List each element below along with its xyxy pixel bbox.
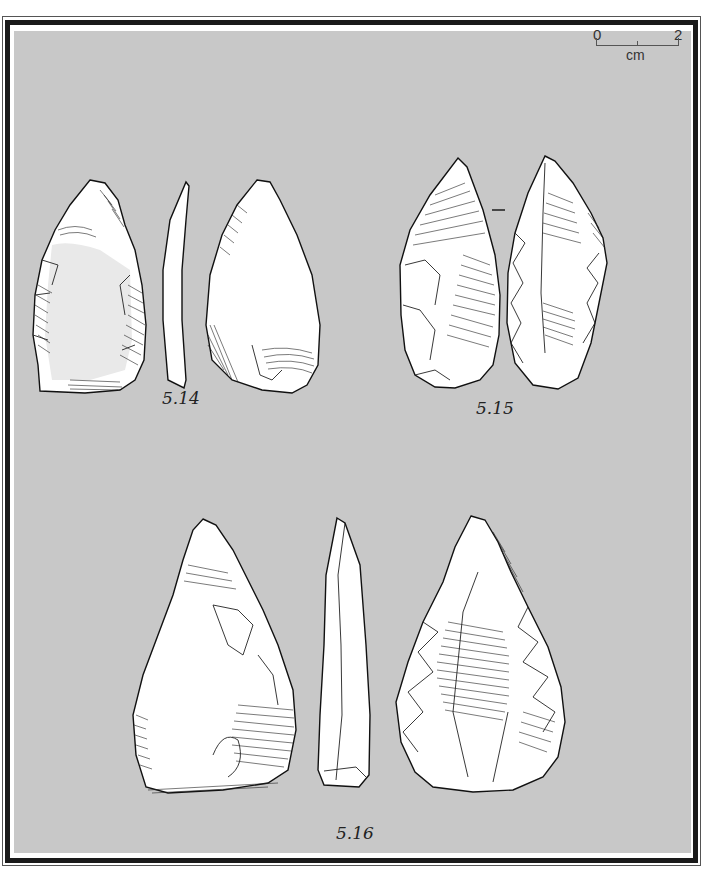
artifact-5-14-ventral-view xyxy=(202,175,328,397)
artifact-5-16-profile-view xyxy=(314,515,376,795)
scale-unit-label: cm xyxy=(626,47,645,63)
artifact-5-16-dorsal-view xyxy=(393,512,570,802)
artifact-5-15-dorsal-view xyxy=(503,153,611,393)
artifact-5-14-profile-view xyxy=(160,180,198,392)
artifact-5-14-dorsal-view xyxy=(30,175,155,397)
artifact-5-16-ventral-view xyxy=(128,515,303,805)
scale-start-label: 0 xyxy=(593,26,601,43)
figure-label-5-16: 5.16 xyxy=(336,823,374,843)
artifact-5-15-ventral-view xyxy=(395,155,507,393)
figure-label-5-15: 5.15 xyxy=(476,398,514,418)
figure-label-5-14: 5.14 xyxy=(162,388,200,408)
scale-tick-end xyxy=(678,38,679,46)
scale-line xyxy=(596,45,678,46)
scale-bar: 0 2 cm xyxy=(588,26,688,76)
